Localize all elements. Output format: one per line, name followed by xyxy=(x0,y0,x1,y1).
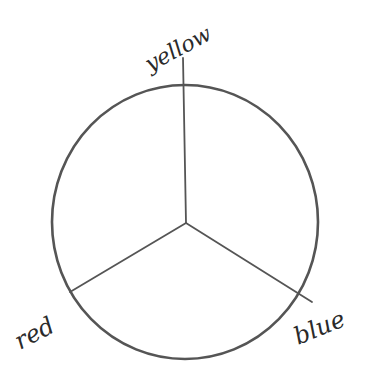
label-blue: blue xyxy=(290,305,349,351)
spoke-yellow xyxy=(183,58,186,223)
color-wheel-diagram: yellow red blue xyxy=(0,0,374,384)
spoke-blue xyxy=(186,223,312,302)
label-yellow: yellow xyxy=(140,21,216,77)
label-red: red xyxy=(10,311,59,355)
spoke-red xyxy=(70,223,186,292)
